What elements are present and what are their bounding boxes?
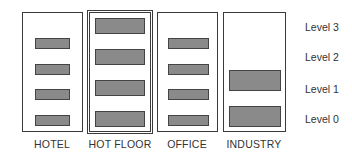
column-hot-floor bbox=[89, 12, 151, 132]
office-level-3-bar bbox=[168, 38, 209, 49]
hotel-level-3-bar bbox=[35, 38, 70, 49]
office-level-1-bar bbox=[168, 89, 209, 100]
level-label-3: Level 3 bbox=[305, 21, 339, 33]
industry-level-0-bar bbox=[229, 106, 281, 127]
column-industry bbox=[223, 12, 286, 132]
hot-floor-level-3-bar bbox=[95, 18, 145, 34]
hotel-level-2-bar bbox=[35, 64, 70, 75]
column-office bbox=[157, 12, 218, 132]
hot-floor-level-1-bar bbox=[95, 80, 145, 96]
hotel-level-0-bar bbox=[35, 115, 70, 126]
hot-floor-level-2-bar bbox=[95, 49, 145, 65]
industry-level-1-bar bbox=[229, 70, 281, 91]
level-label-0: Level 0 bbox=[305, 113, 339, 125]
column-label-industry: INDUSTRY bbox=[214, 138, 294, 150]
level-label-1: Level 1 bbox=[305, 83, 339, 95]
office-level-2-bar bbox=[168, 64, 209, 75]
hotel-level-1-bar bbox=[35, 89, 70, 100]
level-label-2: Level 2 bbox=[305, 51, 339, 63]
column-hotel bbox=[22, 12, 83, 132]
hot-floor-level-0-bar bbox=[95, 111, 145, 127]
office-level-0-bar bbox=[168, 115, 209, 126]
